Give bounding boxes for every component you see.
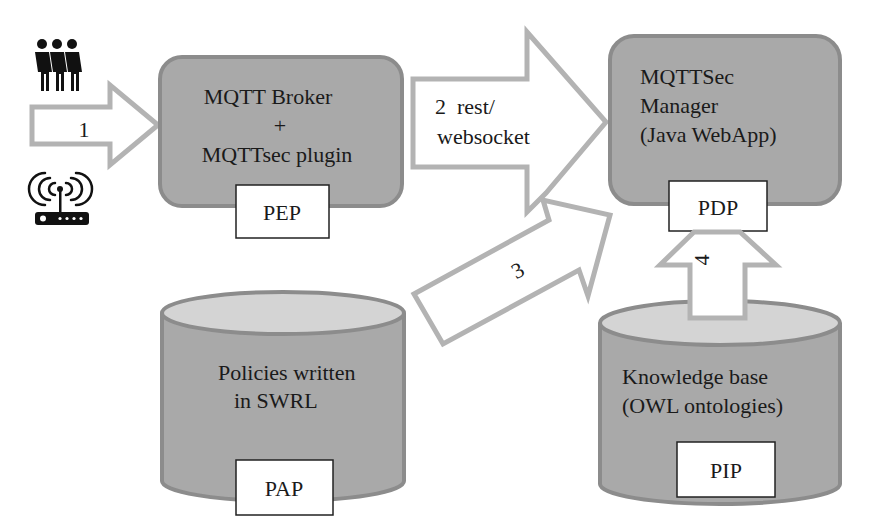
pip-tag: PIP [710,458,742,483]
arrow-3: 3 [414,200,610,344]
pap-tag: PAP [265,476,303,501]
broker-plus: + [274,113,286,138]
policies-title: Policies written [218,360,355,385]
arrow-1: 1 [32,85,158,165]
manager-tech: (Java WebApp) [640,122,777,147]
users-icon [35,39,82,91]
arrow-2-shape [413,32,606,212]
manager-node: MQTTSec Manager (Java WebApp) [610,36,840,204]
pep-tag: PEP [263,200,301,225]
knowledge-subtitle: (OWL ontologies) [622,393,783,418]
knowledge-node: Knowledge base (OWL ontologies) PIP [600,301,840,504]
arrow-1-label: 1 [79,117,90,142]
policies-subtitle: in SWRL [234,388,318,413]
policies-cylinder-top [162,292,404,334]
knowledge-title: Knowledge base [622,364,768,389]
architecture-diagram: 1 MQTT Broker + MQTTsec plugin PEP 2 res… [0,0,872,528]
arrow-2-label-line1: 2 rest/ [435,94,496,119]
pdp-tag-group: PDP [669,181,767,231]
pdp-tag: PDP [698,195,738,220]
manager-title: MQTTSec [640,64,734,89]
arrow-1-shape [32,85,158,165]
broker-node: MQTT Broker + MQTTsec plugin PEP [160,57,402,238]
manager-box [610,36,840,204]
wifi-router-icon [29,173,92,225]
arrow-2-label-line2: websocket [437,124,530,149]
policies-node: Policies written in SWRL PAP [162,292,404,515]
arrow-2: 2 rest/ websocket [413,32,606,212]
arrow-4-label: 4 [689,255,714,266]
broker-plugin: MQTTsec plugin [202,142,353,167]
manager-subtitle: Manager [640,93,719,118]
broker-title: MQTT Broker [204,84,333,109]
